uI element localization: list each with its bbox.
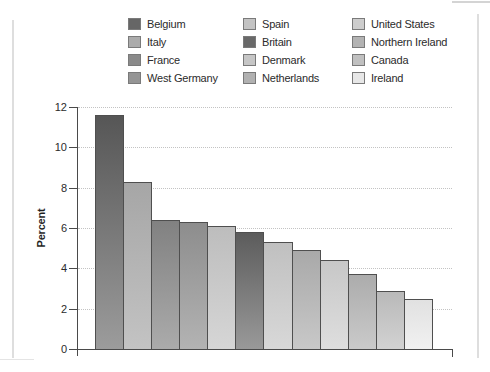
bar-france [151,220,180,350]
legend-swatch-spain [243,18,256,30]
y-tick-4 [69,268,77,269]
y-tick-2 [69,309,77,310]
legend-item-ireland: Ireland [352,69,447,87]
legend-label-belgium: Belgium [147,18,185,30]
legend-swatch-west-germany [128,72,141,84]
bar-northern-ireland [348,274,377,350]
bar-belgium [95,115,124,350]
y-axis-line [77,107,78,356]
legend-swatch-united-states [352,18,365,30]
y-tick-10 [69,147,77,148]
y-tick-label-4: 4 [45,262,67,274]
y-tick-0 [69,349,77,350]
legend-item-northern-ireland: Northern Ireland [352,33,447,51]
legend-item-denmark: Denmark [243,51,319,69]
bar-denmark [263,242,293,350]
legend-label-denmark: Denmark [262,54,305,66]
legend-item-netherlands: Netherlands [243,69,319,87]
x-axis-end-tick [452,349,453,357]
legend-swatch-netherlands [243,72,256,84]
legend-item-united-states: United States [352,15,447,33]
legend-label-west-germany: West Germany [147,72,218,84]
legend-label-canada: Canada [371,54,408,66]
legend-column-2: SpainBritainDenmarkNetherlands [243,15,319,87]
legend-swatch-belgium [128,18,141,30]
legend-label-ireland: Ireland [371,72,403,84]
legend-swatch-ireland [352,72,365,84]
bar-west-germany [179,222,208,350]
legend-item-italy: Italy [128,33,218,51]
y-tick-label-2: 2 [45,303,67,315]
x-axis-line [77,349,453,350]
legend-label-spain: Spain [262,18,289,30]
y-tick-label-8: 8 [45,182,67,194]
bar-united-states [320,260,349,350]
figure-bar-chart: BelgiumItalyFranceWest Germany SpainBrit… [0,0,490,372]
legend-item-belgium: Belgium [128,15,218,33]
legend-item-canada: Canada [352,51,447,69]
legend-column-1: BelgiumItalyFranceWest Germany [128,15,218,87]
legend-swatch-italy [128,36,141,48]
legend-label-france: France [147,54,180,66]
legend-item-spain: Spain [243,15,319,33]
y-tick-label-0: 0 [45,343,67,355]
bar-spain [207,226,236,350]
legend-label-united-states: United States [371,18,434,30]
bar-netherlands [292,250,321,350]
y-tick-label-10: 10 [45,141,67,153]
legend-item-britain: Britain [243,33,319,51]
gridline-10 [78,147,452,148]
bar-italy [123,182,152,350]
y-tick-label-12: 12 [45,101,67,113]
y-tick-12 [69,107,77,108]
legend-label-britain: Britain [262,36,292,48]
page-edge-right [477,14,479,358]
gridline-12 [78,107,452,108]
bar-britain [235,232,264,350]
page-edge-bottom-left [0,359,34,360]
legend-swatch-northern-ireland [352,36,365,48]
legend-label-northern-ireland: Northern Ireland [371,36,447,48]
y-tick-6 [69,228,77,229]
legend-item-west-germany: West Germany [128,69,218,87]
page-edge-left [12,20,14,358]
y-tick-label-6: 6 [45,222,67,234]
page-edge-top-right [452,1,490,3]
legend-label-italy: Italy [147,36,166,48]
y-tick-8 [69,188,77,189]
legend-swatch-canada [352,54,365,66]
legend-swatch-france [128,54,141,66]
legend-item-france: France [128,51,218,69]
bar-canada [376,291,405,350]
legend-swatch-denmark [243,54,256,66]
legend-column-3: United StatesNorthern IrelandCanadaIrela… [352,15,447,87]
legend-label-netherlands: Netherlands [262,72,319,84]
legend-swatch-britain [243,36,256,48]
bar-ireland [404,299,433,350]
